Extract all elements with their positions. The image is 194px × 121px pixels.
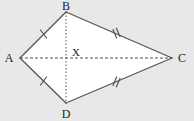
geometry-figure-container: A B C D X bbox=[0, 0, 194, 121]
vertex-label-c: C bbox=[178, 51, 186, 65]
kite-diagram: A B C D X bbox=[0, 0, 194, 121]
vertex-label-d: D bbox=[62, 107, 71, 121]
intersection-label-x: X bbox=[72, 46, 80, 58]
vertex-label-b: B bbox=[62, 0, 70, 13]
vertex-label-a: A bbox=[5, 51, 14, 65]
